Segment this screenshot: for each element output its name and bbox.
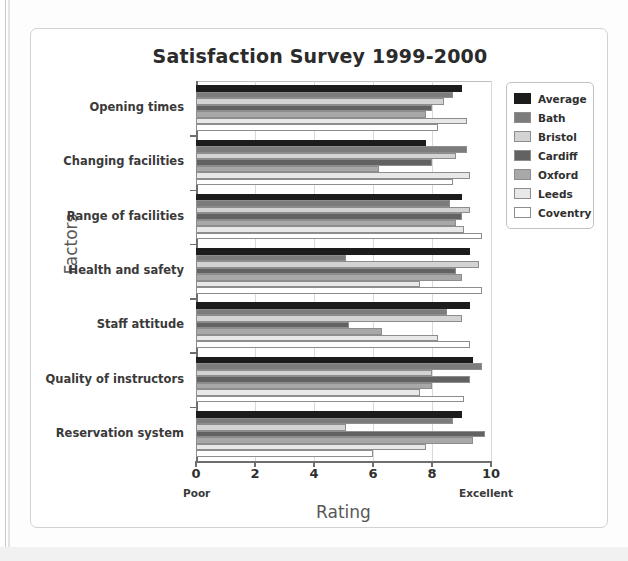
legend-swatch-oxford [514, 169, 531, 180]
bar-coventry [196, 124, 438, 131]
legend-swatch-bristol [514, 131, 531, 142]
legend-item-average[interactable]: Average [514, 90, 587, 107]
legend-item-bath[interactable]: Bath [514, 109, 587, 126]
y-axis-category-label: Health and safety [69, 263, 184, 277]
bar-row [196, 124, 491, 131]
legend-label: Cardiff [538, 150, 578, 162]
legend-swatch-leeds [514, 188, 531, 199]
bar-coventry [196, 233, 482, 240]
bar-row [196, 179, 491, 186]
bar-coventry [196, 287, 482, 294]
y-axis-tick-mark [190, 190, 196, 192]
x-axis-tick-label: 0 [181, 466, 211, 481]
x-axis-tick-label: 4 [299, 466, 329, 481]
scanned-page-background: Satisfaction Survey 1999-2000 Factors 02… [0, 0, 628, 561]
scan-edge-line-left-secondary [8, 0, 10, 561]
y-axis-category-label: Quality of instructors [45, 372, 184, 386]
legend: AverageBathBristolCardiffOxfordLeedsCove… [506, 82, 594, 229]
scan-edge-strip-bottom [0, 547, 628, 561]
chart-title: Satisfaction Survey 1999-2000 [31, 45, 609, 67]
y-axis-category-label: Range of facilities [67, 209, 184, 223]
y-axis-category-label: Changing facilities [63, 154, 184, 168]
bar-coventry [196, 179, 453, 186]
legend-item-coventry[interactable]: Coventry [514, 204, 587, 221]
legend-swatch-average [514, 93, 531, 104]
legend-swatch-coventry [514, 207, 531, 218]
legend-label: Leeds [538, 188, 573, 200]
bar-row [196, 287, 491, 294]
legend-label: Oxford [538, 169, 578, 181]
bar-coventry [196, 450, 373, 457]
gridline [491, 81, 492, 461]
x-axis-tick-label: 2 [240, 466, 270, 481]
bar-group [196, 194, 491, 240]
bar-group [196, 302, 491, 348]
bar-coventry [196, 396, 464, 403]
legend-label: Average [538, 93, 587, 105]
y-axis-category-label: Opening times [90, 100, 184, 114]
bar-group [196, 248, 491, 294]
x-axis-high-annotation: Excellent [459, 487, 513, 499]
plot-frame-top [196, 81, 492, 82]
bar-group [196, 357, 491, 403]
bar-group [196, 411, 491, 457]
legend-label: Bath [538, 112, 566, 124]
x-axis-tick-label: 6 [358, 466, 388, 481]
y-axis-tick-mark [190, 244, 196, 246]
legend-label: Bristol [538, 131, 577, 143]
y-axis-tick-mark [190, 352, 196, 354]
x-axis-title: Rating [196, 502, 491, 522]
y-axis-tick-mark [190, 135, 196, 137]
bar-row [196, 341, 491, 348]
x-axis-line [196, 461, 492, 463]
bar-row [196, 450, 491, 457]
legend-swatch-bath [514, 112, 531, 123]
bar-coventry [196, 341, 470, 348]
legend-item-oxford[interactable]: Oxford [514, 166, 587, 183]
bar-row [196, 233, 491, 240]
y-axis-title: Factors [61, 184, 81, 304]
legend-item-bristol[interactable]: Bristol [514, 128, 587, 145]
y-axis-tick-mark [190, 407, 196, 409]
bar-group [196, 140, 491, 186]
y-axis-tick-mark [190, 298, 196, 300]
y-axis-category-label: Staff attitude [97, 317, 184, 331]
scan-edge-line-left [5, 0, 6, 561]
x-axis-low-annotation: Poor [183, 487, 210, 499]
x-axis-tick-label: 10 [476, 466, 506, 481]
legend-swatch-cardiff [514, 150, 531, 161]
chart-card: Satisfaction Survey 1999-2000 Factors 02… [30, 28, 608, 528]
y-axis-category-label: Reservation system [56, 426, 184, 440]
bar-group [196, 85, 491, 131]
legend-item-cardiff[interactable]: Cardiff [514, 147, 587, 164]
legend-label: Coventry [538, 207, 591, 219]
x-axis-tick-label: 8 [417, 466, 447, 481]
legend-item-leeds[interactable]: Leeds [514, 185, 587, 202]
bar-row [196, 396, 491, 403]
